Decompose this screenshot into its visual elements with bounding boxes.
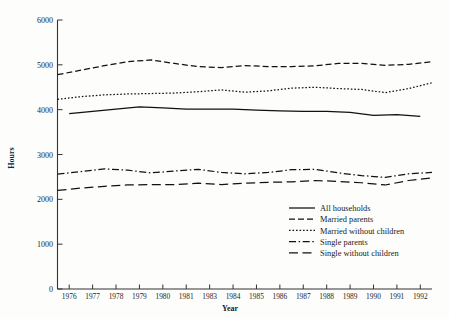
legend-label: Married without children	[320, 227, 405, 236]
x-tick-label: 1986	[272, 292, 287, 301]
y-tick-label: 1000	[37, 240, 53, 249]
x-tick-label: 1991	[390, 292, 405, 301]
x-tick-label: 1980	[155, 292, 170, 301]
x-tick-label: 1992	[413, 292, 428, 301]
y-tick-label: 4000	[37, 106, 53, 115]
x-tick-label: 1987	[296, 292, 311, 301]
x-tick-label: 1977	[85, 292, 100, 301]
y-tick-label: 6000	[37, 16, 53, 25]
legend-label: Single without children	[320, 249, 399, 258]
y-axis-title: Hours	[7, 147, 16, 168]
x-tick-label: 1990	[366, 292, 381, 301]
x-tick-label: 1984	[226, 292, 241, 301]
figure-background	[0, 0, 449, 319]
x-tick-label: 1981	[179, 292, 194, 301]
x-tick-label: 1989	[343, 292, 358, 301]
x-tick-label: 1983	[202, 292, 217, 301]
y-tick-label: 0	[49, 285, 53, 294]
x-tick-label: 1978	[109, 292, 124, 301]
x-axis-title: Year	[222, 304, 238, 313]
x-tick-label: 1985	[249, 292, 264, 301]
legend-label: Married parents	[320, 215, 373, 224]
y-tick-label: 3000	[37, 151, 53, 160]
y-tick-label: 2000	[37, 195, 53, 204]
x-tick-label: 1976	[62, 292, 77, 301]
legend-label: Single parents	[320, 238, 368, 247]
y-tick-label: 5000	[37, 61, 53, 70]
x-tick-label: 1979	[132, 292, 147, 301]
x-tick-label: 1988	[319, 292, 334, 301]
legend-label: All households	[320, 204, 370, 213]
line-chart-figure: 0100020003000400050006000 19761977197819…	[0, 0, 449, 319]
